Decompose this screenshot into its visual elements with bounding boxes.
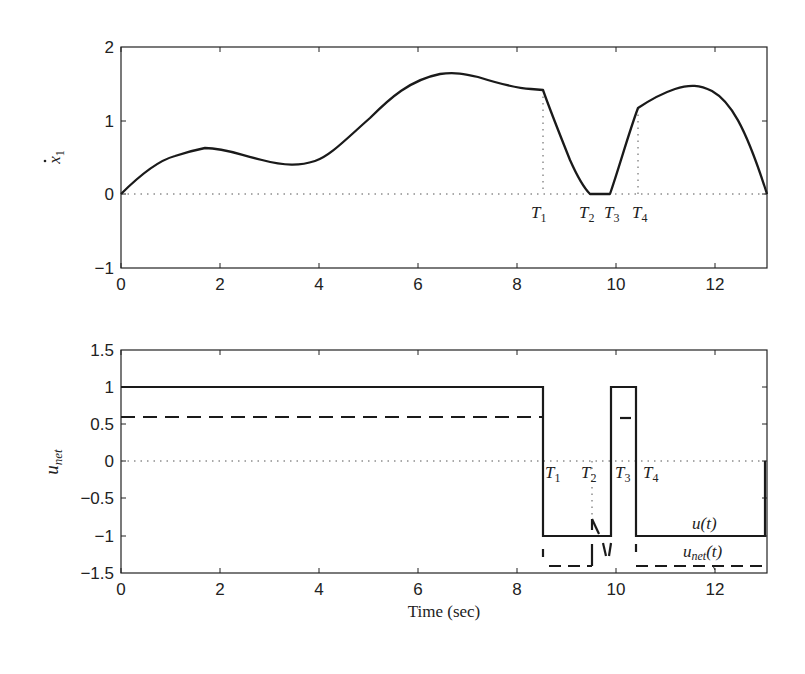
bottom-plot: 0 2 4 6 8 10 12 1.5 1 0.5 0 −0.5 −1 −1.5… (41, 341, 767, 621)
bottom-ytick-neg0.5: −0.5 (80, 489, 114, 508)
top-T4-label: T4 (632, 203, 647, 225)
bottom-xtick-12: 12 (706, 580, 725, 599)
bottom-ytick-0.5: 0.5 (90, 415, 114, 434)
top-xtick-6: 6 (413, 275, 422, 294)
figure: 0 2 4 6 8 10 12 2 1 0 −1 x1 (0, 0, 805, 674)
bottom-x-tick-labels: 0 2 4 6 8 10 12 (116, 580, 724, 599)
top-ytick-0: 0 (105, 185, 114, 204)
bottom-ytick-1: 1 (105, 378, 114, 397)
top-T1-label: T1 (531, 203, 546, 225)
bottom-ylabel-base: u (41, 465, 62, 475)
top-ytick-2: 2 (105, 38, 114, 57)
top-T3-label: T3 (604, 203, 619, 225)
bottom-T-labels: T1 T2 T3 T4 (545, 463, 658, 485)
top-ytick-neg1: −1 (95, 259, 114, 278)
top-plot: 0 2 4 6 8 10 12 2 1 0 −1 x1 (44, 38, 767, 294)
top-xtick-8: 8 (512, 275, 521, 294)
top-xtick-0: 0 (116, 275, 125, 294)
svg-text:x1: x1 (45, 150, 67, 165)
top-plot-axes-box (121, 47, 767, 268)
legend-u-label: u(t) (692, 514, 717, 533)
bottom-ytick-neg1: −1 (95, 527, 114, 546)
top-xtick-2: 2 (215, 275, 224, 294)
bottom-xtick-6: 6 (413, 580, 422, 599)
bottom-unet-curve (121, 417, 765, 566)
bottom-xtick-2: 2 (215, 580, 224, 599)
bottom-xtick-10: 10 (607, 580, 626, 599)
bottom-y-tick-labels: 1.5 1 0.5 0 −0.5 −1 −1.5 (80, 341, 114, 583)
bottom-ytick-1.5: 1.5 (90, 341, 114, 360)
top-ytick-1: 1 (105, 112, 114, 131)
top-x-tick-labels: 0 2 4 6 8 10 12 (116, 275, 724, 294)
top-ylabel: x1 (44, 150, 67, 165)
bottom-ytick-neg1.5: −1.5 (80, 564, 114, 583)
x-axis-title: Time (sec) (408, 602, 481, 621)
top-x1dot-curve (121, 73, 767, 194)
bottom-xtick-0: 0 (116, 580, 125, 599)
bottom-T1-label: T1 (545, 463, 560, 485)
bottom-T4-label: T4 (643, 463, 658, 485)
bottom-ytick-0: 0 (105, 452, 114, 471)
top-xtick-12: 12 (706, 275, 725, 294)
bottom-T2-label: T2 (581, 463, 596, 485)
legend-unet-label: unet(t) (683, 542, 723, 563)
bottom-ylabel: unet (41, 449, 65, 475)
top-xtick-4: 4 (314, 275, 323, 294)
bottom-xtick-8: 8 (512, 580, 521, 599)
bottom-x-ticks (121, 350, 715, 573)
top-y-ticks (121, 121, 767, 194)
bottom-xtick-4: 4 (314, 580, 323, 599)
top-T-labels: T1 T2 T3 T4 (531, 203, 647, 225)
top-ylabel-sub: 1 (53, 150, 67, 156)
bottom-ylabel-sub: net (50, 449, 65, 465)
top-T2-label: T2 (579, 203, 594, 225)
top-y-tick-labels: 2 1 0 −1 (95, 38, 114, 278)
top-ylabel-dot (44, 160, 47, 163)
svg-text:unet: unet (41, 449, 65, 475)
bottom-T3-label: T3 (615, 463, 630, 485)
bottom-plot-axes-box (121, 350, 767, 573)
bottom-y-ticks (121, 387, 767, 536)
top-xtick-10: 10 (607, 275, 626, 294)
